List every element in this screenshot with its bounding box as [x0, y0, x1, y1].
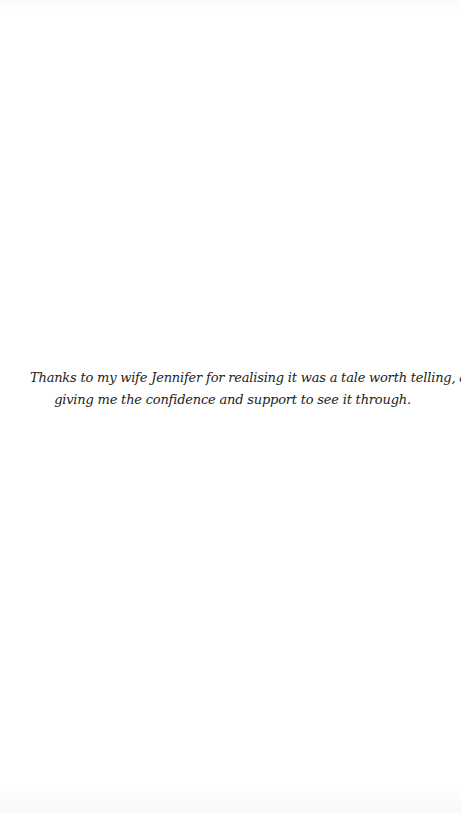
page-edge-shadow-top: [0, 0, 461, 10]
dedication-line-1: Thanks to my wife Jennifer for realising…: [30, 367, 435, 389]
book-page: Thanks to my wife Jennifer for realising…: [0, 0, 461, 813]
dedication-line-2: giving me the confidence and support to …: [30, 389, 435, 411]
page-edge-shadow-bottom: [0, 787, 461, 813]
dedication-text: Thanks to my wife Jennifer for realising…: [30, 367, 435, 411]
